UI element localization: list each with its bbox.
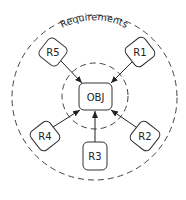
r5-label: R5 [46, 47, 59, 58]
r3-label: R3 [88, 151, 101, 162]
edge-r4-obj [53, 110, 80, 127]
r4-label: R4 [38, 131, 51, 142]
edge-r5-obj [61, 61, 82, 83]
r1-label: R1 [133, 47, 146, 58]
center-node-obj[interactable]: OBJ [79, 83, 112, 110]
requirements-diagram: Requirements OBJ R5 R1 R4 R2 R3 [0, 0, 186, 200]
edge-r2-obj [111, 110, 136, 127]
node-r3[interactable]: R3 [83, 142, 107, 170]
r2-label: R2 [138, 131, 151, 142]
edge-r1-obj [111, 61, 133, 83]
requirements-label: Requirements [58, 11, 130, 30]
node-r2[interactable]: R2 [128, 119, 162, 153]
node-r5[interactable]: R5 [37, 36, 69, 68]
node-r1[interactable]: R1 [123, 35, 157, 69]
obj-label: OBJ [87, 92, 105, 103]
